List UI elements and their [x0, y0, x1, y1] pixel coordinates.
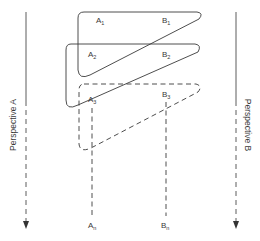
perspective-a-label: Perspective A — [8, 99, 18, 151]
perspective-b-label: Perspective B — [243, 99, 253, 152]
label-a1: A1 — [96, 16, 104, 26]
stage-3-shape — [79, 84, 200, 150]
label-a2: A2 — [88, 50, 96, 60]
arrow-down-icon — [233, 221, 239, 229]
perspective-diagram: Perspective A Perspective B A1 B1 A2 B2 … — [0, 0, 260, 241]
label-b2: B2 — [162, 50, 170, 60]
label-b3: B3 — [162, 90, 170, 100]
perspective-a-axis: Perspective A — [8, 12, 29, 229]
label-an: An — [88, 221, 96, 231]
label-bn: Bn — [161, 221, 169, 231]
label-b1: B1 — [162, 16, 170, 26]
label-a3: A3 — [88, 95, 96, 105]
perspective-b-axis: Perspective B — [233, 12, 253, 229]
arrow-down-icon — [23, 221, 29, 229]
